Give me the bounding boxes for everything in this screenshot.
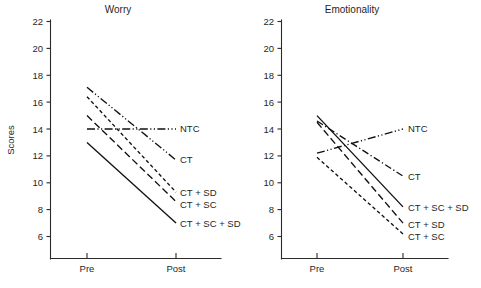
y-tick-label-10-emotionality: 10 [263, 177, 274, 188]
series-line-ct-sd-worry [87, 97, 176, 193]
series-label-ntc-emotionality: NTC [408, 123, 428, 134]
series-label-ct-sc-emotionality: CT + SC [408, 231, 445, 242]
y-tick-label-22-worry: 22 [32, 16, 43, 27]
series-label-ct-sc-worry: CT + SC [180, 199, 217, 210]
y-ticks-emotionality [278, 22, 282, 237]
series-line-ct-sc-emotionality [317, 157, 403, 234]
y-tick-label-10-worry: 10 [32, 177, 43, 188]
series-label-ct-sc-sd-emotionality: CT + SC + SD [408, 202, 469, 213]
x-ticks-worry [87, 253, 176, 259]
series-line-ct-worry [87, 87, 176, 160]
y-tick-label-20-worry: 20 [32, 43, 43, 54]
series-label-ntc-worry: NTC [180, 123, 200, 134]
x-tick-label-post-worry: Post [166, 263, 185, 274]
y-tick-label-14-worry: 14 [32, 124, 43, 135]
panel-emotionality: Emotionality 22 20 18 16 14 12 10 8 [263, 4, 468, 274]
y-tick-label-12-worry: 12 [32, 150, 43, 161]
line-chart-pair: Worry 22 20 18 16 14 12 [0, 0, 481, 288]
series-line-ct-sd-emotionality [317, 122, 403, 223]
x-tick-label-pre-worry: Pre [80, 263, 95, 274]
y-tick-label-18-worry: 18 [32, 70, 43, 81]
x-ticks-emotionality [317, 253, 403, 259]
series-line-ntc-emotionality [317, 129, 403, 153]
y-tick-label-6-emotionality: 6 [269, 231, 274, 242]
y-tick-label-18-emotionality: 18 [263, 70, 274, 81]
y-tick-label-8-emotionality: 8 [269, 204, 274, 215]
series-label-ct-worry: CT [180, 154, 193, 165]
y-ticks-worry [47, 22, 51, 237]
panel-title-emotionality: Emotionality [325, 4, 379, 15]
y-tick-label-6-worry: 6 [38, 231, 43, 242]
x-tick-label-post-emotionality: Post [393, 263, 412, 274]
series-label-ct-sc-sd-worry: CT + SC + SD [180, 218, 241, 229]
panel-title-worry: Worry [105, 4, 131, 15]
series-label-ct-sd-worry: CT + SD [180, 187, 217, 198]
series-label-ct-emotionality: CT [408, 171, 421, 182]
series-line-ct-sc-sd-emotionality [317, 116, 403, 207]
y-tick-label-14-emotionality: 14 [263, 124, 274, 135]
y-tick-label-20-emotionality: 20 [263, 43, 274, 54]
y-tick-label-22-emotionality: 22 [263, 16, 274, 27]
figure-container: Worry 22 20 18 16 14 12 [0, 0, 481, 288]
series-label-ct-sd-emotionality: CT + SD [408, 219, 445, 230]
y-tick-label-12-emotionality: 12 [263, 150, 274, 161]
y-tick-label-16-worry: 16 [32, 97, 43, 108]
y-tick-label-16-emotionality: 16 [263, 97, 274, 108]
x-tick-label-pre-emotionality: Pre [310, 263, 325, 274]
y-axis-title: Scores [5, 125, 16, 155]
series-line-ct-sc-sd-worry [87, 143, 176, 224]
panel-worry: Worry 22 20 18 16 14 12 [32, 4, 240, 274]
y-tick-label-8-worry: 8 [38, 204, 43, 215]
